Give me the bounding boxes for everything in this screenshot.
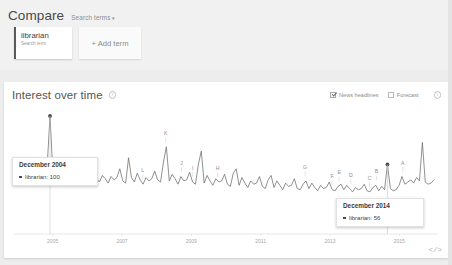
- x-axis-tick-label: 2009: [186, 238, 197, 244]
- chart-controls: News headlines Forecast i: [330, 91, 441, 99]
- search-terms-dropdown-label: Search terms: [71, 14, 110, 21]
- interest-over-time-header: Interest over time i News headlines Fore…: [4, 82, 448, 108]
- x-axis-tick-label: 2015: [394, 238, 405, 244]
- section-title: Interest over time: [12, 89, 103, 101]
- x-axis-tick-label: 2011: [255, 238, 266, 244]
- forecast-toggle[interactable]: Forecast: [388, 92, 419, 98]
- news-headlines-toggle[interactable]: News headlines: [330, 92, 379, 98]
- series-color-dot: [343, 217, 346, 220]
- embed-icon[interactable]: </>: [428, 246, 442, 254]
- forecast-checkbox[interactable]: [388, 92, 394, 98]
- scrollbar-track[interactable]: [448, 0, 452, 265]
- series-color-dot: [19, 176, 22, 179]
- news-marker-g[interactable]: G: [303, 164, 307, 170]
- news-marker-k[interactable]: K: [164, 130, 168, 136]
- search-term-card-librarian[interactable]: librarian Search term: [14, 27, 72, 59]
- tooltip-date: December 2004: [19, 162, 90, 168]
- tooltip-value-row: librarian: 56: [343, 215, 416, 221]
- x-axis: 200520072009201120132015: [14, 234, 438, 244]
- tooltip-value-text: librarian: 56: [349, 215, 380, 221]
- add-term-label: + Add term: [92, 39, 129, 48]
- search-terms-dropdown[interactable]: Search terms ▾: [71, 14, 115, 21]
- news-marker-c[interactable]: C: [368, 175, 372, 181]
- x-axis-tick-label: 2005: [47, 238, 58, 244]
- add-term-button[interactable]: + Add term: [79, 27, 141, 59]
- news-marker-f[interactable]: F: [330, 173, 333, 179]
- info-icon[interactable]: i: [109, 91, 117, 99]
- chevron-down-icon: ▾: [112, 15, 115, 21]
- term-card-list: librarian Search term + Add term: [14, 27, 141, 59]
- news-marker-d[interactable]: D: [349, 172, 353, 178]
- news-marker-e[interactable]: E: [337, 169, 341, 175]
- search-term-name: librarian: [21, 32, 72, 40]
- news-headlines-checkbox[interactable]: [330, 92, 336, 98]
- tooltip-date: December 2014: [343, 203, 416, 209]
- compare-panel: Compare Search terms ▾ librarian Search …: [0, 0, 452, 70]
- tooltip-december-2014: December 2014 librarian: 56: [336, 198, 424, 227]
- news-headline-markers: ABCDEFGHIJKL: [141, 130, 405, 187]
- news-marker-j[interactable]: J: [180, 160, 183, 166]
- news-marker-h[interactable]: H: [216, 165, 220, 171]
- tooltip-december-2004: December 2004 librarian: 100: [12, 157, 98, 186]
- x-axis-tick-label: 2013: [324, 238, 335, 244]
- forecast-label: Forecast: [397, 92, 419, 98]
- tooltip-value-row: librarian: 100: [19, 174, 90, 180]
- search-term-subtitle: Search term: [21, 42, 72, 47]
- forecast-info-icon[interactable]: i: [434, 91, 442, 99]
- news-marker-a[interactable]: A: [401, 160, 405, 166]
- news-marker-l[interactable]: L: [141, 167, 144, 173]
- page-title: Compare: [8, 8, 64, 23]
- compare-header: Compare Search terms ▾: [8, 8, 116, 23]
- news-marker-b[interactable]: B: [375, 168, 379, 174]
- tooltip-value-text: librarian: 100: [25, 174, 60, 180]
- news-marker-i[interactable]: I: [192, 165, 193, 171]
- x-axis-tick-label: 2007: [116, 238, 127, 244]
- news-headlines-label: News headlines: [339, 92, 379, 98]
